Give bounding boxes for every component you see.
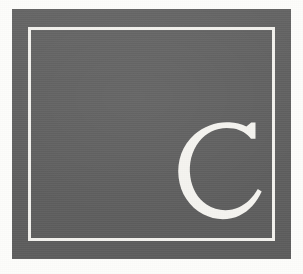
letter-c-artwork: [160, 112, 280, 232]
page-root: A white serif capital letter C set in th…: [0, 0, 303, 274]
letter-c-glyph: [160, 112, 280, 232]
